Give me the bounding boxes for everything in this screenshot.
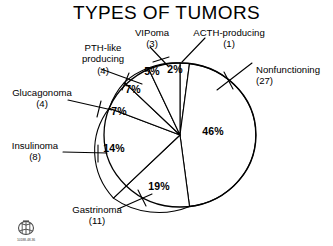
pie-percent-vipoma: 5% (144, 65, 159, 77)
acth-count: (1) (193, 38, 264, 49)
vipoma-name: VIPoma (135, 27, 169, 38)
nonfunctioning-count: (27) (256, 75, 320, 86)
leader-tick-glucagonoma (97, 101, 101, 117)
callout-label-pth-like-producing: PTH-like producing (4) (82, 42, 124, 76)
pth-like-line2: producing (82, 53, 124, 64)
callout-label-nonfunctioning: Nonfunctioning (27) (256, 64, 320, 87)
pie-percent-insulinoma: 14% (103, 142, 124, 154)
institution-seal-icon (16, 219, 36, 236)
watermark: 10188-48-36 (8, 212, 44, 242)
gastrinoma-name: Gastrinoma (72, 204, 122, 215)
leader-tick-vipoma (153, 57, 169, 62)
pie-percent-glucagonoma: 7% (111, 105, 126, 117)
glucagonoma-count: (4) (12, 98, 72, 109)
callout-label-gastrinoma: Gastrinoma (11) (72, 204, 122, 227)
figure-root: TYPES OF TUMORS (0, 0, 333, 246)
insulinoma-name: Insulinoma (12, 140, 58, 151)
callout-label-glucagonoma: Glucagonoma (4) (12, 87, 72, 110)
callout-label-insulinoma: Insulinoma (8) (12, 140, 58, 163)
vipoma-count: (3) (135, 38, 169, 49)
pie-percent-nonfunctioning: 46% (202, 125, 223, 137)
callout-label-vipoma: VIPoma (3) (135, 27, 169, 50)
glucagonoma-name: Glucagonoma (12, 87, 72, 98)
pth-like-count: (4) (82, 65, 124, 76)
watermark-code: 10188-48-36 (8, 238, 44, 242)
pth-like-line1: PTH-like (82, 42, 124, 53)
pie-percent-pth-like-producing: 7% (125, 83, 140, 95)
pie-percent-acth-producing: 2% (167, 63, 182, 75)
nonfunctioning-name: Nonfunctioning (256, 64, 320, 75)
acth-name: ACTH-producing (193, 27, 264, 38)
callout-label-acth-producing: ACTH-producing (1) (193, 27, 264, 50)
pie-slices (95, 63, 256, 213)
pie-percent-gastrinoma: 19% (148, 180, 169, 192)
gastrinoma-count: (11) (72, 215, 122, 226)
insulinoma-count: (8) (12, 151, 58, 162)
leader-line-glucagonoma (68, 100, 112, 110)
leader-line-vipoma (150, 47, 168, 66)
